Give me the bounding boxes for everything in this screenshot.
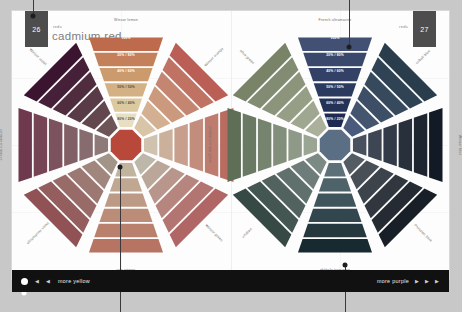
footer-left-label[interactable]: more yellow xyxy=(58,278,90,284)
prev-arrow-icon[interactable]: ◀ xyxy=(35,278,39,284)
color-swatch[interactable] xyxy=(314,193,357,206)
mix-percentage-label: 40% / 60% xyxy=(326,69,344,73)
spoke-color-label: Winsor lemon xyxy=(114,18,138,22)
next-arrow-icon[interactable]: ▶ xyxy=(415,278,419,284)
color-swatch[interactable] xyxy=(190,118,203,171)
callout-dot-swatch xyxy=(347,45,352,50)
color-wheel-french-ultramarine[interactable]: 80% / 20%60% / 40%50% / 50%40% / 60%20% … xyxy=(215,25,455,265)
color-swatch[interactable] xyxy=(89,239,163,252)
color-swatch[interactable] xyxy=(258,118,271,171)
color-swatch[interactable] xyxy=(319,178,351,191)
spoke-color-label: Winsor blue xyxy=(458,135,462,156)
color-swatch[interactable] xyxy=(298,239,372,252)
mix-percentage-label: 50% / 50% xyxy=(117,85,135,89)
callout-dot-bottom-swatch xyxy=(343,263,348,268)
prev-arrow-icon-2[interactable]: ◀ xyxy=(46,278,50,284)
mix-percentage-label: 80% / 20% xyxy=(117,117,135,121)
color-swatch[interactable] xyxy=(64,124,77,167)
spoke-color-label: permanent mauve xyxy=(0,129,3,160)
spoke-color-label: permanent sap green xyxy=(208,126,212,163)
mix-percentage-label: 20% / 80% xyxy=(326,53,344,57)
color-swatch[interactable] xyxy=(99,209,152,222)
color-swatch[interactable] xyxy=(79,129,92,161)
footer-navigation-bar: ◀ ◀ more yellow more purple ▶ ▶ ▶ xyxy=(12,270,449,292)
color-swatch[interactable] xyxy=(49,118,62,171)
spoke-color-label: French ultramarine xyxy=(319,18,352,22)
color-swatch[interactable] xyxy=(368,129,381,161)
color-swatch[interactable] xyxy=(159,129,172,161)
next-arrow-icon-3[interactable]: ▶ xyxy=(435,278,439,284)
current-page-dot[interactable] xyxy=(21,278,28,285)
mix-percentage-label: 40% / 60% xyxy=(117,69,135,73)
mix-percentage-label: 60% / 40% xyxy=(326,101,344,105)
mix-percentage-label: 100% xyxy=(121,36,130,40)
color-swatch[interactable] xyxy=(227,108,240,182)
color-swatch[interactable] xyxy=(34,113,47,177)
color-swatch[interactable] xyxy=(288,129,301,161)
color-swatch[interactable] xyxy=(144,134,157,156)
color-swatch[interactable] xyxy=(95,134,108,156)
mix-percentage-label: 60% / 40% xyxy=(117,101,135,105)
wheel-center-hub[interactable] xyxy=(111,130,141,160)
color-swatch[interactable] xyxy=(399,118,412,171)
footer-right-label[interactable]: more purple xyxy=(377,278,409,284)
color-swatch[interactable] xyxy=(383,124,396,167)
color-swatch[interactable] xyxy=(308,209,361,222)
color-swatch[interactable] xyxy=(273,124,286,167)
footer-right-group: more purple ▶ ▶ ▶ xyxy=(377,278,449,284)
mix-percentage-label: 20% / 80% xyxy=(117,53,135,57)
color-swatch[interactable] xyxy=(243,113,256,177)
color-swatch[interactable] xyxy=(324,163,346,176)
wheel-center-hub[interactable] xyxy=(320,130,350,160)
color-swatch[interactable] xyxy=(18,108,31,182)
color-swatch[interactable] xyxy=(303,224,367,237)
mix-percentage-label: 80% / 20% xyxy=(326,117,344,121)
color-swatch[interactable] xyxy=(94,224,158,237)
callout-dot-wheel-hub xyxy=(118,165,123,170)
color-swatch[interactable] xyxy=(429,108,442,182)
color-swatch[interactable] xyxy=(353,134,366,156)
callout-line-top-right xyxy=(349,0,350,47)
book-spread: 26 27 reds reds cadmium red 80% / 20%60%… xyxy=(12,11,449,279)
color-swatch[interactable] xyxy=(414,113,427,177)
mix-percentage-label: 50% / 50% xyxy=(326,85,344,89)
color-swatch[interactable] xyxy=(174,124,187,167)
mix-percentage-label: 100% xyxy=(330,36,339,40)
color-swatch[interactable] xyxy=(105,193,148,206)
color-swatch[interactable] xyxy=(304,134,317,156)
callout-dot-page-tab xyxy=(31,14,36,19)
next-arrow-icon-2[interactable]: ▶ xyxy=(425,278,429,284)
color-swatch[interactable] xyxy=(110,178,142,191)
